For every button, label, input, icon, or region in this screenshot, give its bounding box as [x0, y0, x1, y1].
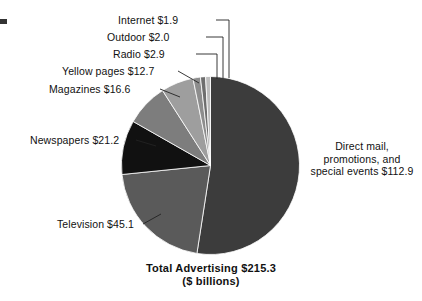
slice-label-direct-mail-line3: special events $112.9 [311, 165, 414, 177]
pie-slice-group [121, 77, 299, 255]
slice-label-internet: Internet $1.9 [118, 14, 178, 27]
slice-label-television: Television $45.1 [57, 218, 134, 231]
pie-slice-direct-mail-promotions-and-special-events [197, 77, 300, 255]
chart-title: Total Advertising $215.3 ($ billions) [0, 262, 422, 288]
leader-line-radio [196, 54, 217, 79]
chart-title-main: Total Advertising $215.3 [0, 262, 422, 275]
slice-label-direct-mail-line1: Direct mail, [335, 140, 389, 152]
leader-line-outdoor [206, 37, 223, 78]
slice-label-radio: Radio $2.9 [113, 48, 165, 61]
slice-label-magazines: Magazines $16.6 [49, 83, 130, 96]
pie-slice-television [122, 166, 211, 254]
slice-label-direct-mail: Direct mail, promotions, and special eve… [308, 140, 416, 178]
chart-title-sub: ($ billions) [0, 275, 422, 288]
leader-line-internet [216, 20, 229, 78]
slice-label-outdoor: Outdoor $2.0 [107, 31, 170, 44]
slice-label-direct-mail-line2: promotions, and [324, 153, 401, 165]
slice-label-newspapers: Newspapers $21.2 [30, 134, 119, 147]
pie-chart-figure: Internet $1.9 Outdoor $2.0 Radio $2.9 Ye… [0, 0, 422, 301]
slice-label-yellow-pages: Yellow pages $12.7 [62, 65, 155, 78]
